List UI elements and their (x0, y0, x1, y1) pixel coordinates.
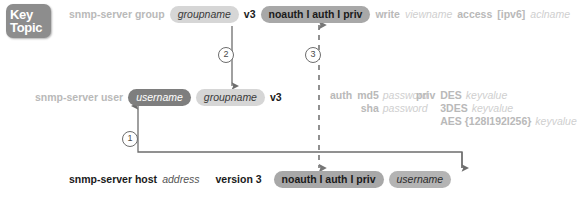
step-marker-3: 3 (305, 47, 321, 63)
host-security-level-badge: noauth I auth I priv (274, 171, 384, 188)
group-security-level-badge: noauth I auth I priv (261, 6, 371, 23)
user-priv-algorithm-name: DES (440, 89, 462, 102)
group-version-label: v3 (244, 8, 256, 21)
user-priv-keyword: priv (416, 89, 435, 102)
command-row-group: snmp-server group groupname v3 noauth I … (69, 6, 575, 23)
user-priv-algorithm-row: DES keyvalue (440, 89, 581, 102)
group-access-keyword: access (457, 8, 492, 21)
user-priv-algorithms: DES keyvalue 3DES keyvalue AES {128I192I… (440, 89, 581, 128)
host-version-label: version 3 (215, 173, 261, 186)
command-row-user: snmp-server user username groupname v3 (35, 89, 287, 106)
group-write-keyword: write (375, 8, 400, 21)
group-write-value: viewname (405, 8, 452, 21)
group-command-label: snmp-server group (69, 8, 165, 21)
user-priv-algorithm-row: AES {128I192I256} keyvalue (440, 115, 581, 128)
user-auth-keyword: auth (330, 89, 352, 102)
host-address-value: address (162, 173, 199, 186)
arrow-username-link (138, 106, 462, 168)
user-auth-algorithm-names: md5 sha (357, 89, 379, 115)
user-priv-algorithm-value: keyvalue (535, 115, 576, 128)
user-priv-algorithm-row: 3DES keyvalue (440, 102, 581, 115)
user-priv-algorithm-name: 3DES (440, 102, 467, 115)
user-priv-group: priv DES keyvalue 3DES keyvalue AES {128… (416, 89, 581, 128)
user-priv-algorithm-name: AES {128I192I256} (440, 115, 531, 128)
user-command-label: snmp-server user (35, 91, 123, 104)
user-auth-algorithm-name: sha (361, 102, 379, 115)
group-access-value: aclname (530, 8, 570, 21)
group-access-option: [ipv6] (497, 8, 525, 21)
key-topic-line2: Topic (10, 21, 42, 34)
user-username-badge: username (128, 89, 191, 106)
step-marker-1: 1 (122, 131, 138, 147)
key-topic-icon: Key Topic (6, 4, 51, 38)
user-version-label: v3 (270, 91, 282, 104)
user-priv-algorithm-value: keyvalue (466, 89, 507, 102)
host-command-label: snmp-server host (69, 173, 157, 186)
group-groupname-badge: groupname (170, 6, 239, 23)
command-row-host: snmp-server host address version 3 noaut… (69, 171, 456, 188)
step-marker-2: 2 (218, 47, 234, 63)
user-auth-algorithm-name: md5 (357, 89, 379, 102)
user-groupname-badge: groupname (196, 89, 265, 106)
user-priv-algorithm-value: keyvalue (472, 102, 513, 115)
host-username-badge: username (389, 171, 452, 188)
